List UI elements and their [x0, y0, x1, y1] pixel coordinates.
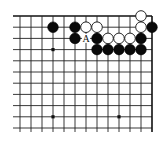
black-stone — [70, 33, 81, 44]
star-point — [51, 115, 54, 118]
black-stone — [92, 33, 103, 44]
white-stone — [125, 33, 136, 44]
black-stone — [48, 22, 59, 33]
black-stone — [136, 44, 147, 55]
white-stone — [81, 22, 92, 33]
star-point — [117, 115, 120, 118]
black-stone — [136, 33, 147, 44]
black-stone — [125, 44, 136, 55]
black-stone — [147, 22, 158, 33]
black-stone — [92, 44, 103, 55]
white-stone — [114, 33, 125, 44]
go-board-diagram: A — [0, 0, 163, 149]
black-stone — [103, 44, 114, 55]
white-stone — [103, 33, 114, 44]
point-label: A — [82, 33, 90, 44]
labels-layer: A — [82, 33, 90, 44]
star-point — [51, 48, 54, 51]
white-stone — [92, 22, 103, 33]
black-stone — [114, 44, 125, 55]
black-stone — [70, 22, 81, 33]
white-stone — [136, 22, 147, 33]
white-stone — [136, 11, 147, 22]
